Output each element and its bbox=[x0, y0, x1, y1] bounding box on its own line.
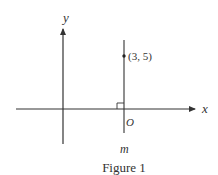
right-angle-marker bbox=[117, 103, 124, 109]
figure-caption: Figure 1 bbox=[102, 160, 146, 175]
origin-label: O bbox=[126, 116, 134, 128]
point-3-5 bbox=[122, 54, 125, 57]
coordinate-diagram: x y (3, 5) O m Figure 1 bbox=[0, 0, 218, 175]
x-axis-label: x bbox=[201, 101, 208, 116]
line-m-label: m bbox=[120, 142, 129, 156]
y-axis-label: y bbox=[61, 10, 69, 25]
point-label: (3, 5) bbox=[128, 50, 152, 63]
